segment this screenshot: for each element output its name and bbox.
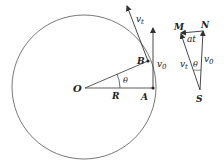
label-O: O xyxy=(73,83,82,94)
label-M: M xyxy=(173,22,185,32)
label-R: R xyxy=(111,91,120,101)
label-theta-main: θ xyxy=(123,76,128,85)
label-v0-main-sub: 0 xyxy=(162,63,167,71)
label-v0-tri-sub: 0 xyxy=(209,58,214,66)
tri-at xyxy=(181,31,203,33)
label-S: S xyxy=(196,94,203,104)
label-theta-tri: θ xyxy=(193,60,198,69)
label-vt-tri-sub: t xyxy=(185,63,188,71)
label-A: A xyxy=(140,92,148,102)
label-at: at xyxy=(187,34,196,44)
label-N: N xyxy=(200,20,210,30)
tri-v0 xyxy=(200,31,203,90)
circle-path xyxy=(12,15,156,159)
theta-arc xyxy=(117,74,120,88)
circular-motion-diagram: O R A B θ v 0 v t M N S at v t θ v 0 xyxy=(0,0,224,164)
label-vt-main-sub: t xyxy=(141,18,144,26)
label-B: B xyxy=(136,56,145,66)
